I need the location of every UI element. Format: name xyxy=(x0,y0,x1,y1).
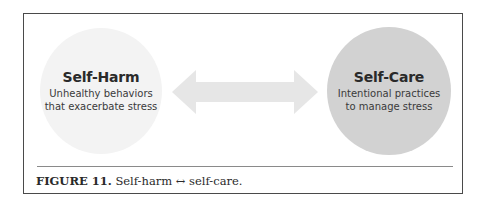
caption-label: FIGURE 11. xyxy=(36,174,112,188)
self-care-node: Self-Care Intentional practices to manag… xyxy=(327,27,451,155)
self-harm-node: Self-Harm Unhealthy behaviors that exace… xyxy=(40,28,162,154)
caption-divider xyxy=(37,166,453,167)
figure-caption: FIGURE 11. Self-harm ↔ self-care. xyxy=(36,174,242,188)
self-harm-desc-line2: that exacerbate stress xyxy=(45,100,158,113)
self-harm-title: Self-Harm xyxy=(63,69,140,85)
self-harm-description: Unhealthy behaviors that exacerbate stre… xyxy=(45,87,158,113)
self-care-desc-line1: Intentional practices xyxy=(338,87,441,100)
self-care-desc-line2: to manage stress xyxy=(338,100,441,113)
self-harm-desc-line1: Unhealthy behaviors xyxy=(45,87,158,100)
self-care-title: Self-Care xyxy=(354,69,424,85)
caption-text: Self-harm ↔ self-care. xyxy=(115,174,242,188)
double-arrow-icon xyxy=(172,70,318,114)
self-care-description: Intentional practices to manage stress xyxy=(338,87,441,113)
